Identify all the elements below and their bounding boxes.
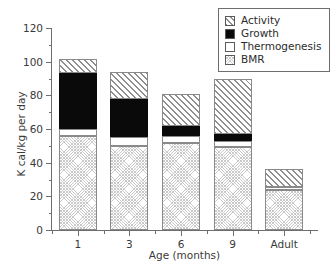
y-tick-label: 20	[30, 191, 43, 202]
x-tick-minor	[155, 231, 156, 234]
bar-segment-activity	[59, 59, 97, 72]
bar-segment-bmr	[110, 146, 148, 230]
bar-segment-bmr	[214, 147, 252, 230]
x-tick-label-9: 9	[229, 239, 236, 250]
bar-segment-thermogenesis	[162, 136, 200, 144]
bar-segment-bmr	[59, 136, 97, 230]
bar-segment-thermogenesis	[265, 187, 303, 190]
x-tick	[181, 231, 182, 236]
bar-3	[110, 72, 148, 230]
x-tick-label-3: 3	[126, 239, 133, 250]
bar-segment-activity	[110, 72, 148, 99]
legend-item-thermogenesis: Thermogenesis	[225, 40, 321, 53]
x-tick	[284, 231, 285, 236]
bar-adult	[265, 169, 303, 230]
y-tick-label: 100	[23, 56, 43, 67]
bar-segment-activity	[265, 169, 303, 188]
y-tick-label: 40	[30, 157, 43, 168]
bar-segment-bmr	[265, 190, 303, 230]
legend-label-activity: Activity	[241, 15, 280, 26]
legend-label-growth: Growth	[241, 28, 279, 39]
bar-segment-activity	[214, 79, 252, 135]
legend-swatch-thermogenesis	[225, 42, 235, 52]
legend-item-growth: Growth	[225, 27, 321, 40]
x-tick-minor	[52, 231, 53, 234]
bar-segment-growth	[162, 126, 200, 135]
bar-1	[59, 59, 97, 230]
bar-segment-bmr	[162, 143, 200, 230]
bar-segment-growth	[214, 134, 252, 141]
legend-swatch-growth	[225, 29, 235, 39]
legend-label-thermogenesis: Thermogenesis	[241, 41, 321, 52]
y-tick-label: 120	[23, 23, 43, 34]
x-tick-minor	[310, 231, 311, 234]
x-tick-minor	[104, 231, 105, 234]
chart-legend: ActivityGrowthThermogenesisBMR	[218, 8, 330, 72]
stacked-bar-chart-figure: 020406080100120 1369Adult K cal/kg per d…	[0, 0, 332, 267]
y-tick-label: 60	[30, 124, 43, 135]
bar-segment-growth	[110, 99, 148, 138]
x-tick-label-6: 6	[178, 239, 185, 250]
bar-segment-activity	[162, 94, 200, 127]
legend-item-activity: Activity	[225, 14, 321, 27]
x-tick	[233, 231, 234, 236]
bar-segment-thermogenesis	[110, 137, 148, 145]
x-axis-label: Age (months)	[51, 249, 318, 261]
x-tick-minor	[258, 231, 259, 234]
x-tick-label-1: 1	[74, 239, 81, 250]
legend-label-bmr: BMR	[241, 54, 265, 65]
legend-item-bmr: BMR	[225, 53, 321, 66]
legend-swatch-bmr	[225, 55, 235, 65]
bar-9	[214, 79, 252, 231]
bar-6	[162, 94, 200, 230]
y-tick-label: 80	[30, 90, 43, 101]
x-tick	[78, 231, 79, 236]
y-axis-label: K cal/kg per day	[15, 69, 27, 199]
x-tick-label-adult: Adult	[271, 239, 298, 250]
x-tick-minor	[207, 231, 208, 234]
bar-segment-growth	[59, 73, 97, 129]
x-tick	[129, 231, 130, 236]
legend-swatch-activity	[225, 16, 235, 26]
bar-segment-thermogenesis	[214, 141, 252, 147]
bar-segment-thermogenesis	[59, 129, 97, 136]
